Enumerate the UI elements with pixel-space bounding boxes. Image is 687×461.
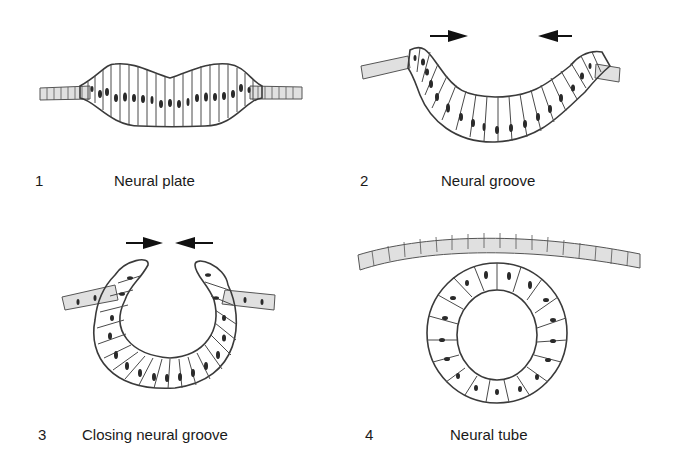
panel-2-number: 2 [360,172,368,189]
panel-3-caption: Closing neural groove [82,426,228,443]
neural-tube-figure [358,233,640,403]
neural-tube-diagram [0,0,687,461]
arrow-right-icon [430,30,468,42]
neural-plate-figure [40,64,302,127]
closing-neural-groove-figure [62,237,275,389]
panel-3-number: 3 [38,426,46,443]
arrow-left-icon [175,237,213,249]
arrow-right-icon [126,237,163,249]
panel-4-number: 4 [365,426,373,443]
panel-1-number: 1 [35,172,43,189]
arrow-left-icon [538,30,572,42]
neural-groove-figure [361,30,620,142]
panel-2-caption: Neural groove [441,172,535,189]
panel-1-caption: Neural plate [114,172,195,189]
panel-4-caption: Neural tube [450,426,528,443]
